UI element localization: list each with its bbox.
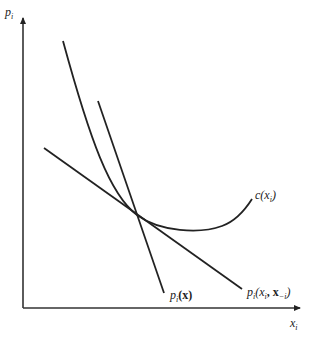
y-axis-label: pi bbox=[5, 5, 13, 21]
x-axis-label: xi bbox=[290, 316, 298, 332]
cost-curve bbox=[63, 41, 252, 231]
own-price-line bbox=[44, 148, 242, 289]
aggregate-price-line-label: pi(x) bbox=[170, 288, 192, 304]
aggregate-price-line bbox=[98, 101, 164, 293]
cost-curve-label: c(xi) bbox=[255, 188, 276, 204]
own-price-line-label: pi(xi, x−i) bbox=[247, 285, 290, 301]
